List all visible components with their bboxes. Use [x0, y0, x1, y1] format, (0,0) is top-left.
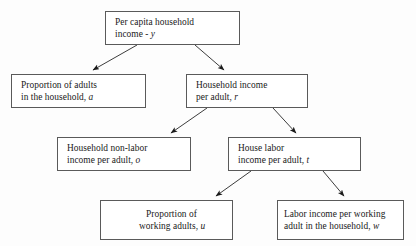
node-variable: u: [200, 221, 205, 231]
node-line-primary: Per capita household: [106, 16, 194, 28]
node-variable: r: [234, 92, 238, 102]
node-line-primary: House labor: [229, 142, 284, 154]
node-line-primary: Household income: [187, 79, 267, 91]
node-line-secondary: income - y: [106, 28, 155, 40]
node-line-primary: Household non-labor: [58, 142, 147, 154]
arrow-r-to-t: [273, 108, 296, 133]
node-labor-income-per-working-adult: Labor income per working adult in the ho…: [277, 200, 404, 240]
node-line-primary: Labor income per working: [278, 208, 385, 220]
node-line-text: income per adult,: [67, 155, 136, 165]
node-line-secondary: in the household, a: [12, 91, 93, 103]
arrow-r-to-o: [171, 108, 207, 133]
node-line-primary: Proportion of: [101, 208, 197, 220]
node-line-text: adult in the household,: [284, 221, 373, 231]
node-proportion-of-adults: Proportion of adults in the household, a: [11, 74, 146, 108]
arrow-t-to-w: [323, 171, 344, 196]
node-variable: y: [151, 29, 155, 39]
node-variable: o: [136, 155, 141, 165]
node-variable: t: [307, 155, 310, 165]
node-line-secondary: adult in the household, w: [278, 220, 379, 232]
arrow-t-to-u: [216, 171, 251, 196]
node-line-primary: Proportion of adults: [12, 79, 97, 91]
node-per-capita-household-income: Per capita household income - y: [105, 11, 240, 45]
node-line-secondary: per adult, r: [187, 91, 238, 103]
node-variable: a: [89, 92, 94, 102]
decomposition-diagram: Per capita household income - y Proporti…: [0, 0, 416, 246]
arrow-y-to-r: [195, 45, 224, 70]
node-line-text: per adult,: [196, 92, 234, 102]
node-line-text: income -: [115, 29, 151, 39]
node-proportion-working-adults: Proportion of working adults, u: [100, 200, 233, 240]
arrow-y-to-a: [93, 45, 137, 70]
node-line-secondary: working adults, u: [101, 220, 205, 232]
node-line-text: working adults,: [139, 221, 200, 231]
node-line-text: income per adult,: [238, 155, 307, 165]
node-variable: w: [373, 221, 379, 231]
node-line-secondary: income per adult, t: [229, 154, 309, 166]
node-household-income-per-adult: Household income per adult, r: [186, 74, 308, 108]
node-house-labor-income: House labor income per adult, t: [228, 137, 361, 171]
node-line-text: in the household,: [21, 92, 89, 102]
node-household-non-labor-income: Household non-labor income per adult, o: [57, 137, 191, 171]
node-line-secondary: income per adult, o: [58, 154, 140, 166]
